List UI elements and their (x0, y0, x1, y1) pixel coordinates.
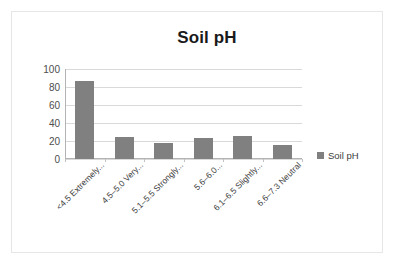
bar[interactable] (273, 145, 292, 159)
bar[interactable] (115, 137, 134, 160)
chart-frame: Soil pH 100806040200 <4.5 Extremely...4.… (11, 11, 383, 253)
bar-slot (105, 69, 145, 159)
chart-title: Soil pH (12, 28, 382, 48)
y-axis-tick-label: 20 (49, 136, 60, 147)
bar-slot (223, 69, 263, 159)
bar[interactable] (194, 138, 213, 159)
legend-label: Soil pH (328, 150, 359, 161)
y-axis-tick-label: 40 (49, 118, 60, 129)
bar-slot (65, 69, 105, 159)
x-axis-tick-mark (302, 159, 303, 162)
chart-legend: Soil pH (317, 150, 359, 161)
x-axis-category-labels: <4.5 Extremely...4.5–5.0 Very...5.1–5.5 … (65, 160, 302, 240)
bar[interactable] (75, 81, 94, 159)
x-axis-category-label: 5.6–6.0... (192, 160, 224, 192)
y-axis-tick-label: 80 (49, 82, 60, 93)
y-axis-tick-label: 100 (43, 64, 60, 75)
plot-area: 100806040200 (65, 69, 302, 159)
x-axis-category-label: <4.5 Extremely... (54, 160, 106, 212)
legend-swatch-icon (317, 152, 324, 159)
bar-slot (184, 69, 224, 159)
bar-series (65, 69, 302, 159)
bar[interactable] (154, 143, 173, 159)
bar-slot (144, 69, 184, 159)
y-axis-tick-label: 0 (54, 154, 60, 165)
bar-slot (263, 69, 303, 159)
y-axis-tick-label: 60 (49, 100, 60, 111)
bar[interactable] (233, 136, 252, 159)
